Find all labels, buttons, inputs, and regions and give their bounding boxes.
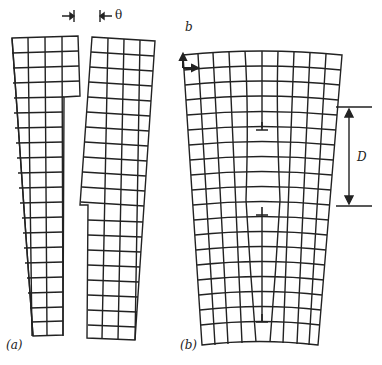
panel-a-label: (a) [6,338,23,352]
burgers-vector-arrows [180,54,198,71]
panel-a-left-grain [12,36,80,336]
spacing-label: D [357,150,367,164]
panel-b-lattice [183,51,342,345]
theta-arrows [62,10,112,22]
panel-b-label: (b) [180,338,197,352]
panel-a-right-grain [80,37,155,340]
burgers-vector-label: b [185,20,193,34]
theta-label: θ [115,8,122,22]
lattice-diagram [0,0,382,365]
